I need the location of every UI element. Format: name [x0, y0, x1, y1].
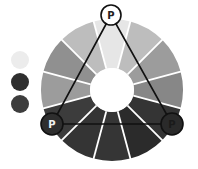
primary-marker-label: P — [107, 10, 114, 21]
primary-marker: P — [161, 113, 183, 135]
primary-marker: P — [41, 113, 63, 135]
wheel-center-hole — [90, 68, 134, 112]
color-swatch — [11, 51, 29, 69]
color-wheel-diagram: PPP — [0, 0, 198, 169]
primary-marker: P — [101, 5, 121, 25]
primary-marker-label: P — [48, 119, 55, 130]
color-swatch — [11, 95, 29, 113]
color-swatch — [11, 73, 29, 91]
primary-marker-label: P — [168, 119, 175, 130]
primary-swatches — [11, 51, 29, 113]
